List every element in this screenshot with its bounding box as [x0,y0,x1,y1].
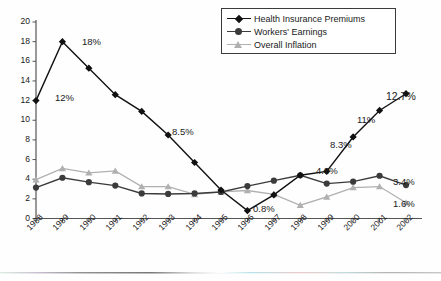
legend-marker-triangle-icon [226,38,252,51]
y-axis-tick-10: 10 [8,115,30,124]
y-axis-tick-16: 16 [8,56,30,65]
annotation-12pct: 12% [55,93,74,103]
scan-artifact-line-secondary [0,273,441,274]
y-axis-tick-4: 4 [8,174,30,183]
legend-item-overall-inflation: Overall Inflation [226,38,391,51]
legend-label-workers-earnings: Workers' Earnings [252,27,327,37]
legend-item-workers-earnings: Workers' Earnings [226,25,391,38]
annotation-1-6pct: 1.6% [393,199,415,209]
annotation-11pct: 11% [357,115,375,125]
annotation-18pct: 18% [82,37,101,47]
chart-figure: 02468101214161820 1988198919901991199219… [0,0,441,281]
legend-label-health-insurance-premiums: Health Insurance Premiums [252,14,365,24]
y-axis-tick-6: 6 [8,155,30,164]
y-axis-tick-12: 12 [8,96,30,105]
annotation-0-8pct: 0.8% [253,204,275,214]
y-axis-tick-2: 2 [8,194,30,203]
annotation-4-8pct: 4.8% [316,166,338,176]
y-axis-tick-18: 18 [8,37,30,46]
annotation-3-4pct: 3.4% [393,177,415,187]
y-axis-tick-8: 8 [8,135,30,144]
legend-label-overall-inflation: Overall Inflation [252,40,317,50]
annotation-8-5pct: 8.5% [172,127,194,137]
legend-marker-circle-icon [226,25,252,38]
annotation-12-7pct: 12.7% [386,91,416,101]
legend-marker-diamond-icon [226,12,252,25]
legend-item-health-insurance-premiums: Health Insurance Premiums [226,12,391,25]
chart-legend: Health Insurance Premiums Workers' Earni… [221,8,396,54]
annotation-8-3pct: 8.3% [330,140,352,150]
y-axis-tick-14: 14 [8,76,30,85]
y-axis-tick-20: 20 [8,17,30,26]
